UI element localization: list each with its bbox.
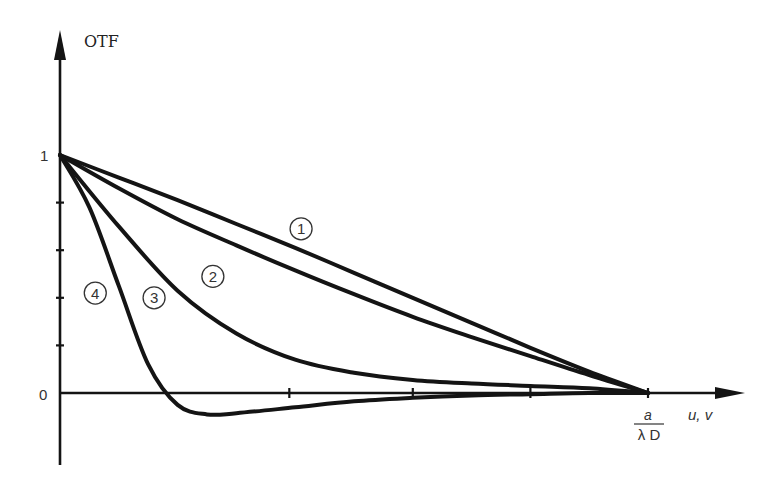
x-axis-title: u, v (688, 406, 714, 423)
axis-ticks (56, 203, 648, 398)
curve-label-4: 4 (84, 282, 106, 304)
curve-label-2: 2 (202, 265, 224, 287)
label-number: 2 (209, 268, 217, 285)
x-end-label-numerator: a (644, 407, 652, 423)
label-number: 3 (150, 289, 158, 306)
otf-chart: 1234 OTF u, v 1 0 a λ D (0, 0, 782, 489)
curve-label-3: 3 (143, 287, 165, 309)
y-tick-label-1: 1 (40, 147, 48, 164)
curve-1 (60, 155, 648, 393)
label-number: 1 (297, 220, 305, 237)
y-axis-title: OTF (84, 32, 119, 51)
x-axis-arrow-icon (715, 387, 745, 399)
y-axis-arrow-icon (54, 30, 66, 60)
curve-label-1: 1 (290, 218, 312, 240)
x-end-label-denominator: λ D (638, 426, 661, 443)
y-tick-label-0: 0 (39, 386, 47, 403)
label-number: 4 (91, 285, 99, 302)
curves (60, 155, 648, 415)
curve-4 (60, 155, 648, 415)
